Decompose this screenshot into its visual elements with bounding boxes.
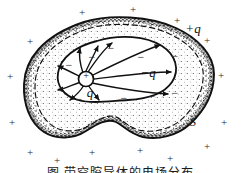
plus-sign: +: [79, 7, 85, 18]
plus-sign: +: [137, 145, 143, 156]
minus-sign: −: [121, 93, 128, 104]
plus-sign: +: [174, 15, 180, 26]
plus-sign: +: [27, 36, 33, 47]
central-charge-symbol: +: [83, 71, 89, 81]
plus-sign: +: [27, 147, 33, 158]
plus-sign: +: [204, 141, 210, 152]
plus-sign: +: [218, 70, 224, 81]
minus-sign: −: [59, 83, 66, 94]
plus-sign: +: [221, 117, 227, 128]
gaussian-surface-label: S: [190, 116, 196, 128]
plus-sign: +: [9, 117, 15, 128]
plus-sign: +: [204, 35, 210, 46]
plus-sign: +: [89, 147, 95, 158]
minus-sign: −: [172, 51, 179, 62]
figure-container: −−−−−−−−−− +++++++++++++++ +q−q+qS 图 带空腔…: [0, 0, 241, 173]
minus-sign: −: [149, 91, 156, 102]
figure-caption: 图 带空腔导体的电场分布: [0, 163, 241, 173]
outer-charge-label: +q: [185, 22, 200, 35]
plus-sign: +: [167, 153, 173, 164]
minus-sign: −: [76, 94, 83, 105]
plus-sign: +: [130, 4, 136, 15]
minus-sign: −: [172, 88, 179, 99]
minus-sign: −: [108, 43, 115, 54]
induced-charge-label: −q: [140, 66, 155, 79]
minus-sign: −: [89, 52, 96, 63]
minus-sign: −: [66, 60, 73, 71]
plus-sign: +: [7, 71, 13, 82]
minus-sign: −: [138, 52, 145, 63]
inner-charge-label: q: [87, 86, 94, 99]
